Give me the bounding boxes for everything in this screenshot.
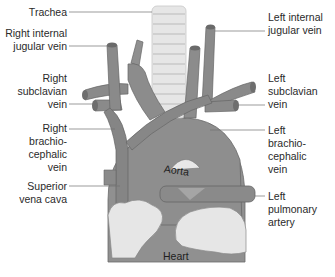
label-left-brachiocephalic-vein: Left brachio- cephalic vein — [268, 124, 307, 176]
label-line: artery — [268, 216, 317, 229]
label-right-subclavian-vein: Right subclavian vein — [17, 72, 67, 111]
label-line: vein — [17, 98, 67, 111]
fat-right — [175, 207, 246, 254]
label-left-pulmonary-artery: Left pulmonary artery — [268, 190, 317, 229]
label-line: Right — [28, 122, 67, 135]
label-line: subclavian — [268, 85, 318, 98]
label-line: cephalic — [268, 150, 307, 163]
label-line: Superior — [19, 180, 67, 193]
label-heart: Heart — [163, 250, 189, 262]
left-pulmonary-artery-shape — [160, 186, 255, 202]
label-line: vena cava — [19, 193, 67, 206]
label-trachea: Trachea — [29, 6, 67, 19]
label-line: jugular vein — [5, 40, 67, 53]
label-line: brachio- — [28, 135, 67, 148]
label-line: Left — [268, 124, 307, 137]
label-right-internal-jugular-vein: Right internal jugular vein — [5, 27, 67, 53]
label-line: vein — [28, 161, 67, 174]
label-left-internal-jugular-vein: Left internal jugular vein — [268, 11, 323, 37]
label-line: cephalic — [28, 148, 67, 161]
label-line: Left internal — [268, 11, 323, 24]
anatomy-diagram: Trachea Right internal jugular vein Righ… — [0, 0, 335, 277]
label-line: Right internal — [5, 27, 67, 40]
label-line: pulmonary — [268, 203, 317, 216]
label-line: vein — [268, 98, 318, 111]
label-line: Trachea — [29, 6, 67, 19]
label-line: jugular vein — [268, 24, 323, 37]
label-line: subclavian — [17, 85, 67, 98]
label-line: Left — [268, 190, 317, 203]
label-line: vein — [268, 163, 307, 176]
label-line: Right — [17, 72, 67, 85]
label-line: brachio- — [268, 137, 307, 150]
label-superior-vena-cava: Superior vena cava — [19, 180, 67, 206]
label-left-subclavian-vein: Left subclavian vein — [268, 72, 318, 111]
label-line: Left — [268, 72, 318, 85]
label-right-brachiocephalic-vein: Right brachio- cephalic vein — [28, 122, 67, 174]
